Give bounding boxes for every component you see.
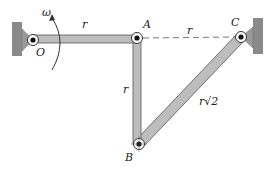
label-link-AC: r [187, 25, 192, 36]
link-BC [136, 34, 245, 148]
label-link-AB: r [123, 84, 128, 95]
link-OA [33, 35, 137, 43]
label-C: C [231, 17, 239, 28]
pin-O-icon [28, 35, 39, 46]
linkage-diagram: ω O r A r C r r√2 B [0, 0, 275, 170]
label-B: B [125, 152, 133, 163]
pin-A-icon [132, 33, 143, 44]
dashed-line-AC [143, 37, 235, 38]
label-A: A [143, 19, 151, 30]
label-link-BC: r√2 [199, 96, 218, 107]
label-link-OA: r [82, 19, 87, 30]
link-AB [133, 38, 141, 144]
pin-C-icon [236, 32, 247, 43]
label-O: O [36, 47, 45, 58]
label-omega: ω [42, 7, 51, 18]
